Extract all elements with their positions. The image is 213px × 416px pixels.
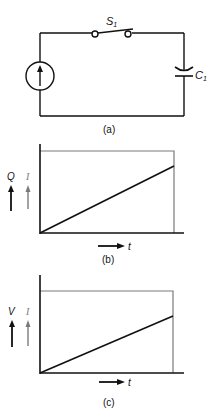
switch-icon [92,29,133,37]
circuit-panel-a: S1 C1 (a) [26,15,207,135]
charge-ramp-b [40,166,174,233]
arrow-up-icon [8,185,14,211]
voltage-ramp-c [40,316,173,373]
y-label-v: V [8,306,16,317]
caption-b: (b) [102,254,114,265]
caption-c: (c) [103,397,115,408]
current-source-icon [26,62,54,90]
graph-panel-b: Q I t (b) [7,144,184,265]
graph-panel-c: V I t (c) [8,275,184,408]
capacitor-label: C1 [195,69,207,82]
arrow-up-icon [9,320,15,347]
arrow-right-icon [98,243,125,249]
caption-a: (a) [103,124,115,135]
y-label-i-c: I [25,306,30,317]
switch-label: S1 [106,15,117,28]
figure-canvas: S1 C1 (a) Q I [0,0,213,416]
arrow-up-grey-icon [26,185,31,209]
x-label-t-b: t [128,241,132,252]
arrow-right-icon [99,379,125,385]
arrow-up-grey-icon [26,320,31,346]
y-label-q: Q [7,171,15,182]
y-label-i-b: I [25,171,30,182]
current-trace-b [40,151,174,233]
x-label-t-c: t [128,377,132,388]
current-trace-c [40,291,173,373]
